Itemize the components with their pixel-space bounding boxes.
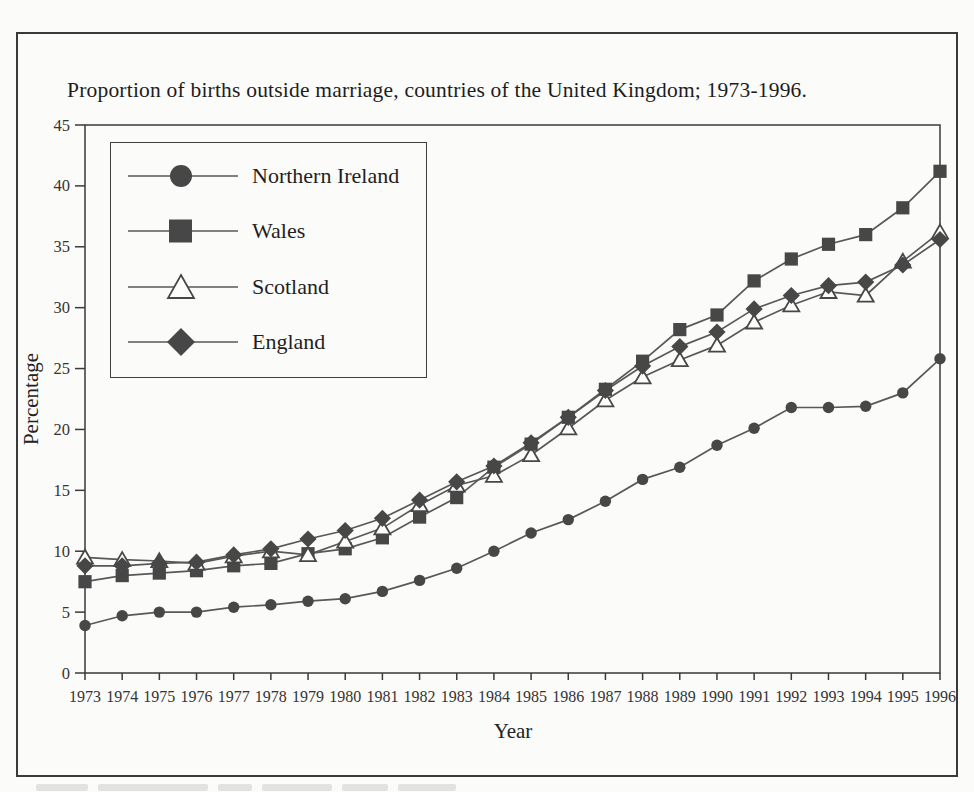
marker-circle-northern-ireland <box>786 402 797 413</box>
marker-circle-northern-ireland <box>897 387 908 398</box>
marker-circle-northern-ireland <box>600 496 611 507</box>
x-tick-label: 1994 <box>850 688 882 705</box>
marker-circle-northern-ireland <box>860 401 871 412</box>
marker-diamond-england <box>894 256 911 273</box>
marker-circle-northern-ireland <box>748 423 759 434</box>
x-tick-label: 1984 <box>478 688 510 705</box>
legend-label: England <box>252 329 325 355</box>
x-tick-label: 1976 <box>181 688 213 705</box>
marker-circle-northern-ireland <box>117 610 128 621</box>
triangle-marker-icon <box>124 270 242 304</box>
marker-square-wales <box>78 575 91 588</box>
x-tick-label: 1987 <box>589 688 621 705</box>
x-tick-label: 1995 <box>887 688 919 705</box>
marker-diamond-england <box>857 274 874 291</box>
x-tick-label: 1991 <box>738 688 770 705</box>
marker-diamond-england <box>746 300 763 317</box>
series-line-northern-ireland <box>85 359 940 626</box>
marker-circle-northern-ireland <box>488 546 499 557</box>
x-tick-label: 1980 <box>329 688 361 705</box>
x-tick-label: 1983 <box>441 688 473 705</box>
y-tick-label: 5 <box>62 603 70 622</box>
x-tick-label: 1986 <box>552 688 584 705</box>
x-tick-label: 1992 <box>775 688 807 705</box>
y-tick-label: 15 <box>54 481 71 500</box>
marker-square-wales <box>933 165 946 178</box>
marker-circle-northern-ireland <box>563 514 574 525</box>
x-tick-label: 1982 <box>404 688 436 705</box>
legend-label: Wales <box>252 218 305 244</box>
legend-item-england: England <box>111 325 426 359</box>
marker-circle-northern-ireland <box>711 440 722 451</box>
y-tick-label: 35 <box>54 237 71 256</box>
marker-circle-northern-ireland <box>674 462 685 473</box>
x-tick-label: 1981 <box>366 688 398 705</box>
x-tick-label: 1993 <box>812 688 844 705</box>
marker-circle-northern-ireland <box>377 586 388 597</box>
marker-square-wales <box>859 228 872 241</box>
marker-circle-northern-ireland <box>525 527 536 538</box>
marker-circle-northern-ireland <box>79 620 90 631</box>
x-tick-label: 1979 <box>292 688 324 705</box>
square-marker-icon <box>124 214 242 248</box>
y-tick-label: 40 <box>54 176 71 195</box>
marker-diamond-england <box>299 530 316 547</box>
line-chart-plot: 0510152025303540451973197419751976197719… <box>0 0 974 792</box>
legend-item-northern-ireland: Northern Ireland <box>111 159 426 193</box>
y-tick-label: 10 <box>54 542 71 561</box>
x-tick-label: 1985 <box>515 688 547 705</box>
marker-diamond-england <box>671 338 688 355</box>
figure-page: Proportion of births outside marriage, c… <box>0 0 974 792</box>
marker-square-wales <box>822 238 835 251</box>
legend-item-scotland: Scotland <box>111 270 426 304</box>
marker-square-wales <box>413 511 426 524</box>
y-tick-label: 25 <box>54 359 71 378</box>
y-tick-label: 30 <box>54 298 71 317</box>
marker-square-wales <box>748 274 761 287</box>
y-tick-label: 20 <box>54 420 71 439</box>
marker-diamond-england <box>708 323 725 340</box>
marker-square-wales <box>673 323 686 336</box>
marker-circle-northern-ireland <box>340 593 351 604</box>
x-tick-label: 1996 <box>924 688 956 705</box>
marker-square-wales <box>450 491 463 504</box>
marker-square-wales <box>264 557 277 570</box>
legend-box: Northern Ireland Wales Scotland England <box>110 142 427 378</box>
x-tick-label: 1974 <box>106 688 138 705</box>
marker-circle-northern-ireland <box>934 353 945 364</box>
marker-square-wales <box>710 308 723 321</box>
marker-diamond-england <box>337 522 354 539</box>
marker-square-wales <box>785 252 798 265</box>
marker-circle-northern-ireland <box>414 575 425 586</box>
marker-diamond-england <box>783 287 800 304</box>
marker-circle-northern-ireland <box>154 606 165 617</box>
marker-circle-northern-ireland <box>637 474 648 485</box>
x-tick-label: 1973 <box>69 688 101 705</box>
marker-circle-northern-ireland <box>191 606 202 617</box>
circle-marker-icon <box>124 159 242 193</box>
marker-circle-northern-ireland <box>823 402 834 413</box>
diamond-marker-icon <box>124 325 242 359</box>
marker-circle-northern-ireland <box>451 563 462 574</box>
x-tick-label: 1990 <box>701 688 733 705</box>
x-axis-title: Year <box>494 719 533 744</box>
cropped-source-caption <box>36 784 456 792</box>
legend-label: Scotland <box>252 274 329 300</box>
x-tick-label: 1989 <box>664 688 696 705</box>
marker-circle-northern-ireland <box>228 602 239 613</box>
marker-square-wales <box>896 201 909 214</box>
legend-item-wales: Wales <box>111 214 426 248</box>
y-tick-label: 45 <box>54 116 71 135</box>
y-tick-label: 0 <box>62 664 70 683</box>
legend-label: Northern Ireland <box>252 163 399 189</box>
x-tick-label: 1975 <box>143 688 175 705</box>
marker-circle-northern-ireland <box>302 596 313 607</box>
x-tick-label: 1978 <box>255 688 287 705</box>
marker-circle-northern-ireland <box>265 599 276 610</box>
x-tick-label: 1988 <box>627 688 659 705</box>
x-tick-label: 1977 <box>218 688 250 705</box>
